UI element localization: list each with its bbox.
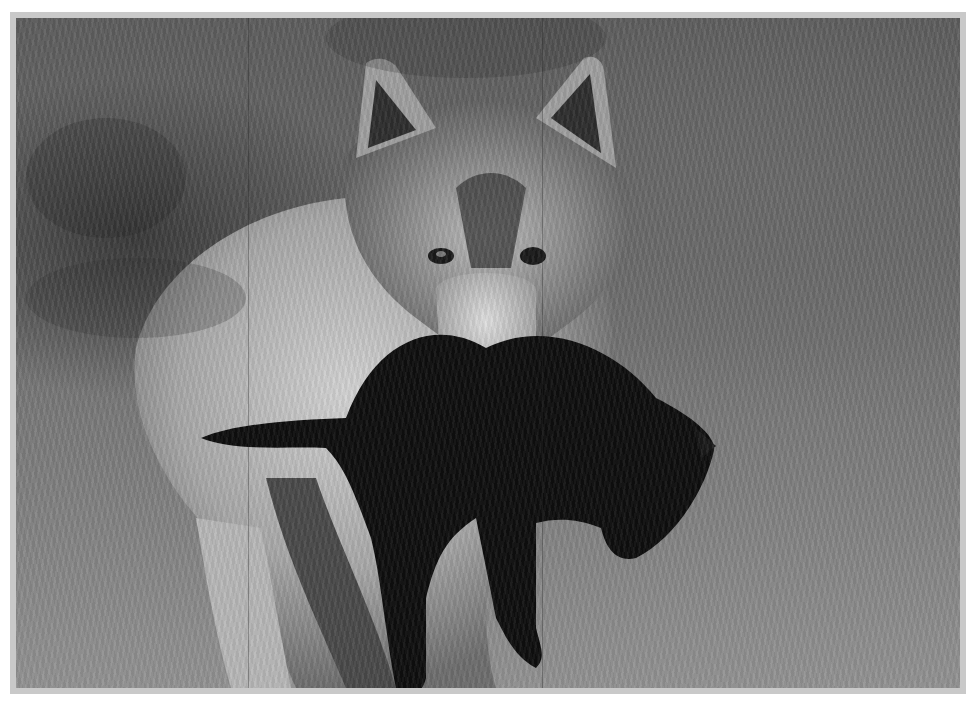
scan-artifact-line — [248, 18, 249, 688]
photo-frame — [10, 12, 966, 694]
scan-artifact-line — [542, 18, 543, 688]
photo-scene — [16, 18, 960, 688]
wolf-photo — [16, 18, 960, 688]
